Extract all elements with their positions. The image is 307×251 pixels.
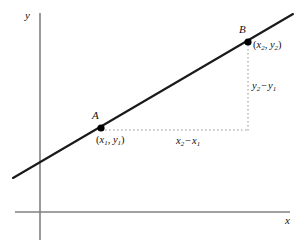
coord-close-paren: ): [121, 134, 125, 145]
rise-var-1: y: [252, 80, 257, 91]
rise-operator: −: [260, 80, 268, 91]
point-b-coordinates: (x2, y2): [253, 40, 282, 51]
x-axis-label: x: [285, 215, 290, 226]
y-axis-label: y: [25, 10, 30, 21]
diagram-canvas: [0, 0, 307, 251]
point-b-marker: [244, 38, 251, 45]
coord-y-var: y: [113, 134, 118, 145]
run-var-1: x: [176, 135, 181, 146]
point-a-marker: [97, 124, 104, 131]
rise-sub-1: 2: [257, 85, 260, 92]
run-sub-2: 1: [197, 140, 200, 147]
run-label: x2−x1: [176, 136, 200, 147]
point-a-label: A: [92, 110, 99, 121]
coord-y-subscript: 1: [118, 139, 121, 146]
rise-sub-2: 1: [273, 85, 276, 92]
coord-x-subscript: 1: [104, 139, 107, 146]
coord-y-var: y: [270, 39, 275, 50]
slope-line: [13, 14, 293, 178]
point-a-coordinates: (x1, y1): [96, 135, 125, 146]
run-sub-1: 2: [181, 140, 184, 147]
coord-x-subscript: 2: [261, 44, 264, 51]
rise-label: y2−y1: [252, 81, 276, 92]
coord-close-paren: ): [278, 39, 282, 50]
slope-diagram-figure: y x A B (x1, y1) (x2, y2) y2−y1 x2−x1: [0, 0, 307, 251]
point-b-label: B: [239, 24, 246, 35]
coord-y-subscript: 2: [275, 44, 278, 51]
run-operator: −: [184, 135, 192, 146]
